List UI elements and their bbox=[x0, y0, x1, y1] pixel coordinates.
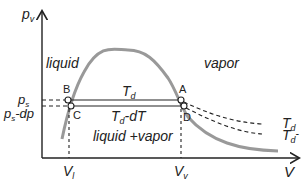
y-axis-label: pv bbox=[21, 6, 35, 24]
point-c-label: C bbox=[73, 109, 81, 121]
y-tick-ps-dp: ps-dp bbox=[3, 106, 34, 123]
point-a-label: A bbox=[179, 83, 187, 95]
phase-diagram: pv V liquid vapor liquid +vapor B C A D … bbox=[0, 0, 306, 187]
x-axis-label: V bbox=[284, 163, 296, 180]
vapor-isotherm-td-dt bbox=[186, 108, 262, 134]
region-liquid: liquid bbox=[46, 55, 80, 71]
region-vapor: vapor bbox=[204, 55, 240, 71]
point-a-marker bbox=[178, 97, 184, 103]
region-liquid-vapor: liquid +vapor bbox=[93, 128, 174, 144]
point-d-marker bbox=[181, 103, 187, 109]
isotherm-td-label: Td bbox=[122, 83, 137, 101]
point-d-label: D bbox=[183, 111, 191, 123]
point-b-marker bbox=[65, 97, 71, 103]
x-tick-vv: Vv bbox=[174, 163, 188, 181]
isotherm-td-dt-label: Td-dT bbox=[111, 108, 147, 126]
point-b-label: B bbox=[63, 83, 70, 95]
x-tick-vl: Vl bbox=[63, 163, 75, 181]
